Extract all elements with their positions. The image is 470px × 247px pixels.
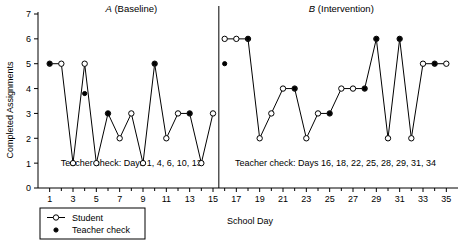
x-axis-tick-label: 31 xyxy=(395,194,405,204)
student-data-point xyxy=(444,61,449,66)
phase-name: (Intervention) xyxy=(315,3,374,14)
y-axis-tick-label: 5 xyxy=(26,59,31,69)
student-data-point xyxy=(280,86,285,91)
x-axis-tick-label: 7 xyxy=(117,194,122,204)
x-axis-tick-label: 15 xyxy=(208,194,218,204)
x-axis-tick-label: 29 xyxy=(371,194,381,204)
student-data-point xyxy=(350,86,355,91)
teacher-check-data-point xyxy=(246,37,250,41)
x-axis-tick-label: 5 xyxy=(94,194,99,204)
y-axis-tick-label: 3 xyxy=(26,109,31,119)
y-axis-tick-label: 4 xyxy=(26,84,31,94)
phase-titles: A (Baseline)B (Intervention) xyxy=(104,3,373,14)
student-data-point xyxy=(175,111,180,116)
x-axis-tick-label: 21 xyxy=(278,194,288,204)
chart-container: Completed Assignments 01234567 135791113… xyxy=(0,0,470,247)
student-data-point xyxy=(234,36,239,41)
legend-student-label: Student xyxy=(72,213,104,223)
legend-teacher-label: Teacher check xyxy=(72,225,131,235)
phase-letter: A xyxy=(104,3,111,14)
x-axis-tick-label: 19 xyxy=(255,194,265,204)
student-data-point xyxy=(82,61,87,66)
teacher-check-data-point xyxy=(83,91,87,95)
legend-teacher-marker xyxy=(54,228,58,232)
x-axis-tick-label: 11 xyxy=(162,194,171,204)
y-axis-tick-label: 6 xyxy=(26,34,31,44)
teacher-check-annotation-baseline: Teacher check: Days 1, 4, 6, 10, 13 xyxy=(61,158,202,168)
y-axis-tick-label: 2 xyxy=(26,134,31,144)
student-line-intervention xyxy=(225,39,447,138)
x-axis-tick-label: 13 xyxy=(185,194,195,204)
y-axis-tick-label: 1 xyxy=(26,159,31,169)
x-axis-tick-label: 33 xyxy=(418,194,428,204)
student-data-point xyxy=(59,61,64,66)
student-data-point xyxy=(304,136,309,141)
x-axis-tick-label: 27 xyxy=(348,194,358,204)
y-axis-title-label: Completed Assignments xyxy=(5,61,15,159)
student-data-point xyxy=(117,136,122,141)
phase-title-baseline: A (Baseline) xyxy=(104,3,157,14)
student-data-point xyxy=(70,160,75,165)
student-data-point xyxy=(140,160,145,165)
student-data-point xyxy=(222,36,227,41)
student-data-point xyxy=(210,111,215,116)
x-axis-tick-label: 35 xyxy=(441,194,451,204)
phase-annotations: Teacher check: Days 1, 4, 6, 10, 13Teach… xyxy=(61,158,436,168)
teacher-check-data-point xyxy=(48,62,52,66)
y-axis-tick-label: 0 xyxy=(26,183,31,193)
student-data-point xyxy=(94,160,99,165)
student-data-point xyxy=(129,111,134,116)
phase-name: (Baseline) xyxy=(112,3,157,14)
student-data-point xyxy=(385,136,390,141)
x-axis-tick-label: 17 xyxy=(231,194,241,204)
teacher-check-data-point xyxy=(433,62,437,66)
teacher-check-annotation-intervention: Teacher check: Days 16, 18, 22, 25, 28, … xyxy=(235,158,436,168)
x-axis-ticks: 1357911131517192123252729313335 xyxy=(47,188,451,204)
student-data-point xyxy=(164,136,169,141)
y-axis-ticks: 01234567 xyxy=(26,9,38,193)
teacher-check-data-point xyxy=(398,37,402,41)
x-axis-tick-label: 25 xyxy=(325,194,335,204)
series-lines xyxy=(50,39,447,163)
x-axis-tick-label: 9 xyxy=(140,194,145,204)
teacher-check-data-point xyxy=(328,111,332,115)
series-markers xyxy=(47,36,449,166)
single-subject-design-chart: Completed Assignments 01234567 135791113… xyxy=(0,0,470,247)
student-data-point xyxy=(269,111,274,116)
teacher-check-data-point xyxy=(363,86,367,90)
phase-title-intervention: B (Intervention) xyxy=(309,3,374,14)
teacher-check-data-point xyxy=(374,37,378,41)
legend-student-marker xyxy=(53,215,58,220)
student-data-point xyxy=(257,136,262,141)
x-axis-tick-label: 3 xyxy=(70,194,75,204)
x-axis-title: School Day xyxy=(227,216,274,226)
teacher-check-data-point xyxy=(223,62,227,66)
y-axis-title: Completed Assignments xyxy=(5,61,15,159)
chart-legend: StudentTeacher check xyxy=(40,208,145,239)
student-data-point xyxy=(339,86,344,91)
student-data-point xyxy=(420,61,425,66)
student-data-point xyxy=(199,160,204,165)
teacher-check-data-point xyxy=(293,86,297,90)
y-axis-tick-label: 7 xyxy=(26,9,31,19)
student-data-point xyxy=(315,111,320,116)
x-axis-tick-label: 23 xyxy=(301,194,311,204)
teacher-check-data-point xyxy=(106,111,110,115)
x-axis-tick-label: 1 xyxy=(47,194,52,204)
x-axis-title-label: School Day xyxy=(227,216,274,226)
teacher-check-data-point xyxy=(153,62,157,66)
teacher-check-data-point xyxy=(188,111,192,115)
student-data-point xyxy=(409,136,414,141)
